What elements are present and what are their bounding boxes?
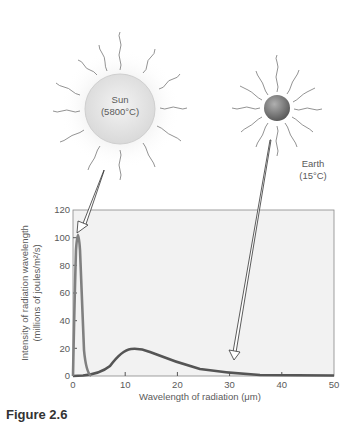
- earth-label: Earth: [302, 158, 325, 169]
- y-tick-40: 40: [59, 315, 70, 326]
- sun-temp-label: (5800°C): [101, 106, 139, 117]
- figure-caption: Figure 2.6: [6, 407, 67, 422]
- y-tick-60: 60: [59, 287, 70, 298]
- plot-area: [73, 210, 334, 376]
- x-tick-40: 40: [277, 379, 288, 390]
- x-tick-0: 0: [70, 379, 75, 390]
- y-tick-20: 20: [59, 343, 70, 354]
- sun-label: Sun: [112, 94, 129, 105]
- earth-illustration: Earth (15°C): [232, 55, 327, 181]
- y-axis: 0 20 40 60 80 100 120 Intensity of radia…: [19, 204, 77, 381]
- sun-illustration: Sun (5800°C): [53, 32, 187, 180]
- earth-temp-label: (15°C): [299, 170, 327, 181]
- y-tick-80: 80: [59, 260, 70, 271]
- y-tick-100: 100: [54, 232, 70, 243]
- y-tick-0: 0: [65, 370, 70, 381]
- y-axis-label-line1: Intensity of radiation wavelength: [19, 225, 30, 361]
- chart: 0 20 40 60 80 100 120 Intensity of radia…: [19, 204, 339, 402]
- x-tick-50: 50: [329, 379, 340, 390]
- x-tick-10: 10: [120, 379, 131, 390]
- y-tick-120: 120: [54, 204, 70, 215]
- x-tick-30: 30: [224, 379, 235, 390]
- y-axis-label-line2: (millions of joules/m²/s): [31, 244, 42, 341]
- x-axis-label: Wavelength of radiation (μm): [139, 391, 261, 402]
- earth-disk: [264, 95, 290, 121]
- x-tick-20: 20: [172, 379, 183, 390]
